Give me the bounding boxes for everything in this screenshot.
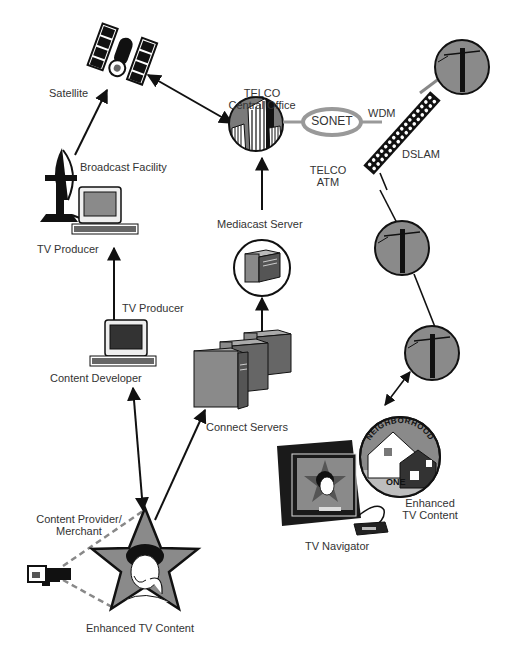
connector-star-to-connect-servers (155, 410, 205, 520)
label-telco-central-office-line2: Central Office (224, 99, 300, 111)
label-telco-atm: TELCO ATM (306, 164, 350, 188)
utility-pole-icon-1 (435, 40, 489, 94)
label-mediacast-server: Mediacast Server (217, 218, 303, 230)
mediacast-server-icon (234, 240, 290, 296)
label-tv-producer-top: TV Producer (37, 243, 99, 255)
tv-producer-computer-icon (72, 187, 138, 234)
connect-servers-icon (194, 330, 291, 409)
label-content-provider-line1: Content Provider/ (24, 513, 134, 525)
label-satellite: Satellite (49, 87, 88, 99)
network-diagram: NEIGHBORHOOD Satellite TELCO Central Off… (0, 0, 505, 664)
label-enhanced-tv-content-right-line1: Enhanced (395, 497, 465, 509)
label-enhanced-tv-content-bottom: Enhanced TV Content (86, 622, 194, 634)
label-sonet: SONET (303, 115, 361, 127)
label-enhanced-tv-content-right-line2: TV Content (395, 509, 465, 521)
connector-dslam-to-pole-2 (380, 173, 398, 225)
dslam-icon (363, 91, 440, 175)
label-wdm: WDM (368, 107, 396, 119)
connector-content-dev-to-star (133, 388, 143, 510)
connector-pole-3-to-neighborhood (385, 372, 410, 405)
label-broadcast-facility: Broadcast Facility (80, 161, 167, 173)
utility-pole-icon-2 (375, 221, 429, 275)
label-content-developer: Content Developer (50, 372, 142, 384)
label-telco-central-office: TELCO Central Office (224, 87, 300, 111)
label-content-provider-merchant: Content Provider/ Merchant (24, 513, 134, 537)
satellite-icon (87, 23, 157, 85)
label-telco-central-office-line1: TELCO (224, 87, 300, 99)
label-tv-navigator: TV Navigator (305, 540, 369, 552)
label-dslam: DSLAM (402, 148, 440, 160)
label-enhanced-tv-content-right: Enhanced TV Content (395, 497, 465, 521)
label-telco-atm-line2: ATM (306, 176, 350, 188)
label-tv-producer-mid: TV Producer (122, 302, 184, 314)
content-developer-computer-icon (90, 320, 156, 366)
connector-broadcast-to-satellite (75, 90, 107, 155)
utility-pole-icon-3 (405, 326, 459, 380)
connector-pole-2-to-pole-3 (414, 274, 435, 327)
label-telco-atm-line1: TELCO (306, 164, 350, 176)
connector-satellite-to-central-office (148, 75, 232, 123)
label-connect-servers: Connect Servers (206, 421, 288, 433)
video-camera-icon (28, 566, 71, 586)
label-neighborhood-one: ONE (386, 476, 406, 488)
connector-dslam-to-pole-1 (420, 78, 440, 93)
label-content-provider-line2: Merchant (24, 525, 134, 537)
